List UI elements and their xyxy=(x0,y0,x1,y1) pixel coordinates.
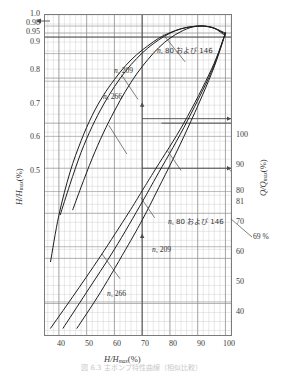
ytick-left-5: 0.7 xyxy=(16,100,40,108)
annotation-upper-ns209: ns 209 xyxy=(114,66,133,75)
y-right-title-sub: max xyxy=(262,172,268,181)
y-axis-right-title: Q/Qmax(%) xyxy=(258,159,268,196)
y-right-title-unit: (%) xyxy=(258,159,268,172)
figure-container: 1.0 0.98 0.95 0.9 0.8 0.7 0.6 0.5 100 90… xyxy=(0,0,283,379)
xtick-3: 70 xyxy=(134,340,156,348)
xtick-5: 90 xyxy=(190,340,212,348)
ytick-left-6: 0.6 xyxy=(16,133,40,141)
y-left-title-unit: (%) xyxy=(14,168,24,181)
ytick-right-3: 81 xyxy=(236,198,262,206)
annotation-text: 209 xyxy=(120,66,133,75)
annotation-text: 80 および 146 xyxy=(174,218,224,226)
xtick-0: 40 xyxy=(50,340,72,348)
figure-caption: 図 6.3 主ポンプ特性曲線（相似比較） xyxy=(0,362,283,372)
leader-line-2 xyxy=(109,125,127,154)
ytick-left-3: 0.9 xyxy=(16,38,40,46)
curve-3 xyxy=(51,33,226,328)
leader-line-6 xyxy=(228,168,231,195)
y-left-title-sub: max xyxy=(18,181,24,190)
leader-line-69-percent xyxy=(230,216,262,246)
arrowhead-70 xyxy=(227,166,231,170)
annotation-text: 209 xyxy=(158,245,171,254)
y-axis-left-title: H/Hmax(%) xyxy=(14,168,24,205)
annotation-lower-ns266: ns 266 xyxy=(107,289,126,298)
xtick-1: 50 xyxy=(78,340,100,348)
arrowhead-vertical-upper xyxy=(140,102,144,107)
curve-4 xyxy=(63,33,225,328)
ytick-right-5: 60 xyxy=(236,248,262,256)
ytick-left-2: 0.95 xyxy=(16,28,40,36)
ytick-right-6: 50 xyxy=(236,278,262,286)
ytick-right-7: 40 xyxy=(236,308,262,316)
annotation-upper-ns80: ns 80 および 146 xyxy=(157,45,213,55)
y-left-title-main: H/H xyxy=(14,190,24,205)
chart-canvas xyxy=(45,15,231,335)
arrowhead-098-left xyxy=(36,16,50,26)
annotation-text: 266 xyxy=(113,289,126,298)
annotation-upper-ns266: ns 266 xyxy=(103,92,122,101)
xtick-4: 80 xyxy=(162,340,184,348)
ytick-left-4: 0.8 xyxy=(16,66,40,74)
arrowhead-81 xyxy=(227,116,231,120)
annotation-lower-ns209: ns 209 xyxy=(152,245,171,254)
y-right-title-main: Q/Q xyxy=(258,181,268,196)
annotation-text: 266 xyxy=(109,92,122,101)
xtick-2: 60 xyxy=(106,340,128,348)
ytick-right-0: 100 xyxy=(236,131,262,139)
annotation-lower-ns80: ns 80 および 146 xyxy=(168,216,224,226)
plot-area xyxy=(44,14,232,336)
annotation-text: 80 および 146 xyxy=(163,47,213,55)
arrowhead-vertical-lower xyxy=(140,234,144,239)
curve-0 xyxy=(51,26,226,262)
xtick-6: 100 xyxy=(218,340,240,348)
